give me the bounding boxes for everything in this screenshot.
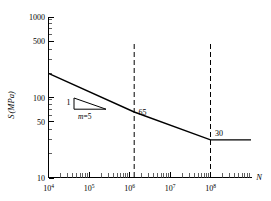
chart-figure: 1000 500 100 50 10 S(MPa): [0, 0, 271, 201]
y-tick-label-500: 500: [33, 37, 45, 46]
annotation-65: 65: [139, 108, 147, 117]
y-tick-label-10: 10: [37, 174, 45, 183]
y-tick-label-50: 50: [37, 118, 45, 127]
y-axis-title: S(MPa): [6, 91, 16, 119]
y-tick-label-100: 100: [33, 94, 45, 103]
slope-m-label: m=5: [78, 112, 92, 121]
sn-curve-chart: 1000 500 100 50 10 S(MPa): [0, 0, 271, 201]
y-axis-title-unit: (MPa): [6, 91, 16, 113]
slope-rise-label: 1: [67, 98, 71, 107]
annotation-30: 30: [215, 129, 223, 138]
svg-text:S(MPa): S(MPa): [6, 91, 16, 119]
y-tick-label-1000: 1000: [29, 13, 45, 22]
slope-m-value: =5: [83, 112, 91, 121]
